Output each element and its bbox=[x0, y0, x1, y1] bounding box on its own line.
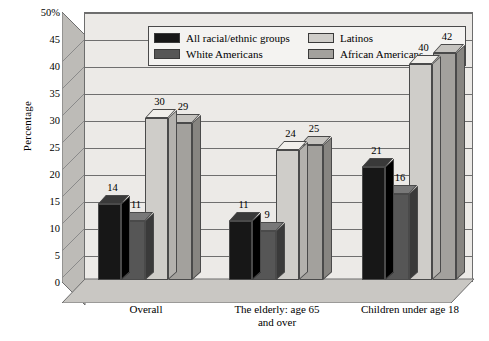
y-tick-0: 0 bbox=[55, 277, 60, 288]
bar-chart: Percentage 50%454035302520151050 1411302… bbox=[0, 0, 489, 341]
y-tick-5: 5 bbox=[55, 250, 60, 261]
category-label-line: The elderly: age 65 bbox=[202, 303, 352, 316]
bar-front-face bbox=[362, 167, 385, 280]
bar-side-face bbox=[409, 186, 418, 280]
bar-value-label-0-3: 29 bbox=[166, 101, 201, 112]
legend-swatch-latinos bbox=[308, 33, 334, 43]
bar-side-face bbox=[323, 137, 332, 280]
legend-item-1: White Americans bbox=[154, 48, 304, 60]
legend-item-0: All racial/ethnic groups bbox=[154, 32, 304, 44]
bar-side-face bbox=[299, 142, 308, 280]
y-axis-tick-labels: 50%454035302520151050 bbox=[18, 0, 60, 341]
bar-value-label-1-3: 25 bbox=[297, 123, 332, 134]
y-tick-20: 20 bbox=[50, 169, 61, 180]
bar-value-label-1-1: 9 bbox=[250, 209, 285, 220]
y-tick-40: 40 bbox=[50, 61, 61, 72]
legend-label-1: White Americans bbox=[186, 48, 263, 60]
bar-side-face bbox=[145, 213, 154, 280]
legend-label-2: Latinos bbox=[340, 32, 373, 44]
category-label-0: Overall bbox=[71, 303, 221, 316]
category-label-2: Children under age 18 bbox=[335, 303, 485, 316]
y-tick-50: 50% bbox=[41, 7, 60, 18]
bar-value-label-2-3: 42 bbox=[430, 31, 465, 42]
bar-side-face bbox=[432, 56, 441, 280]
bar-1-0 bbox=[229, 221, 252, 280]
bar-2-0 bbox=[362, 167, 385, 280]
bar-value-label-0-1: 11 bbox=[119, 199, 154, 210]
y-tick-30: 30 bbox=[50, 115, 61, 126]
legend-swatch-all-racial-ethnic-groups bbox=[154, 33, 180, 43]
bar-side-face bbox=[192, 115, 201, 280]
legend-swatch-white-americans bbox=[154, 49, 180, 59]
legend-swatch-african-americans bbox=[308, 49, 334, 59]
category-label-line: Overall bbox=[71, 303, 221, 316]
bar-side-face bbox=[252, 213, 261, 280]
y-tick-45: 45 bbox=[50, 34, 61, 45]
category-label-line: Children under age 18 bbox=[335, 303, 485, 316]
bar-front-face bbox=[98, 204, 121, 280]
y-tick-25: 25 bbox=[50, 142, 61, 153]
bar-value-label-2-0: 21 bbox=[359, 145, 394, 156]
legend-label-0: All racial/ethnic groups bbox=[186, 32, 290, 44]
plot-area: 14113029119242521164042 All racial/ethni… bbox=[62, 12, 482, 302]
x-axis-category-labels: OverallThe elderly: age 65and overChildr… bbox=[62, 303, 482, 341]
bar-value-label-2-2: 40 bbox=[406, 42, 441, 53]
category-label-1: The elderly: age 65and over bbox=[202, 303, 352, 329]
bar-value-label-2-1: 16 bbox=[383, 172, 418, 183]
bar-side-face bbox=[276, 223, 285, 280]
category-label-line: and over bbox=[202, 316, 352, 329]
bar-value-label-1-0: 11 bbox=[226, 199, 261, 210]
y-tick-35: 35 bbox=[50, 88, 61, 99]
y-tick-10: 10 bbox=[50, 223, 61, 234]
y-tick-15: 15 bbox=[50, 196, 61, 207]
bar-front-face bbox=[229, 221, 252, 280]
bar-side-face bbox=[456, 45, 465, 280]
bar-0-0 bbox=[98, 204, 121, 280]
bar-value-label-0-0: 14 bbox=[95, 182, 130, 193]
bar-side-face bbox=[168, 110, 177, 280]
